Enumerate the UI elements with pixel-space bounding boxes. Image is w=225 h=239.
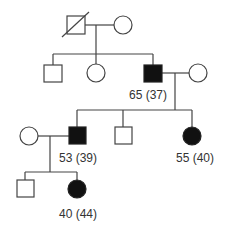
individual-II-3-affected-male (144, 65, 162, 82)
individual-III-3-male (115, 127, 132, 144)
pedigree-chart (0, 0, 225, 239)
individual-IV-1-male (17, 180, 34, 197)
individual-I-1-deceased-male (62, 12, 89, 37)
individual-IV-2-affected-female (68, 180, 86, 198)
individual-II-4-female (189, 64, 207, 82)
individual-III-2-affected-male (69, 127, 86, 144)
label-III-2: 53 (39) (59, 152, 97, 164)
label-II-3: 65 (37) (129, 89, 167, 101)
individual-II-2-female (87, 64, 105, 82)
individual-III-1-female (20, 127, 38, 145)
individual-II-1-male (44, 65, 62, 82)
label-III-4: 55 (40) (176, 152, 214, 164)
label-IV-2: 40 (44) (59, 208, 97, 220)
individual-III-4-affected-female (183, 127, 201, 145)
individual-I-2-female (114, 16, 132, 34)
